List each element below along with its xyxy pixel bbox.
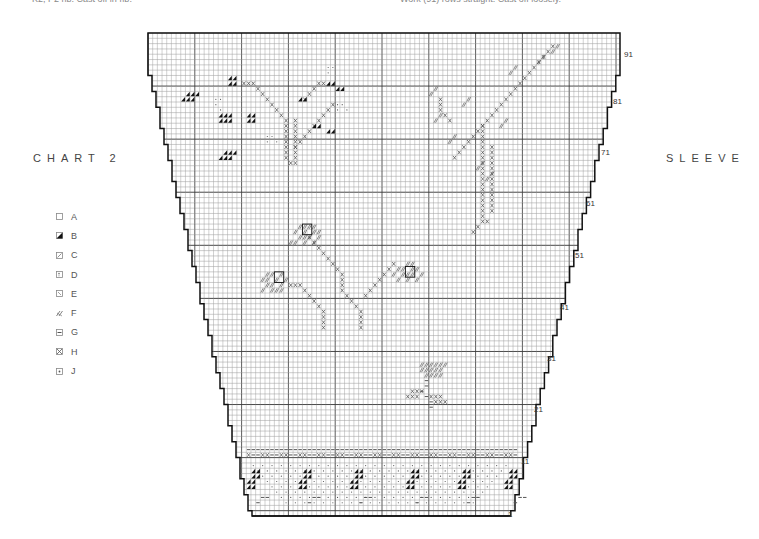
row-label: 81	[613, 97, 622, 106]
sleeve-chart-grid	[0, 0, 759, 539]
row-label: 91	[624, 50, 633, 59]
row-label: 61	[586, 199, 595, 208]
row-label: 1	[508, 510, 512, 519]
row-label: 41	[560, 303, 569, 312]
row-label: 31	[547, 354, 556, 363]
row-label: 21	[534, 405, 543, 414]
row-label: 11	[521, 457, 529, 466]
row-label: 71	[601, 148, 610, 157]
row-label: 51	[575, 251, 584, 260]
